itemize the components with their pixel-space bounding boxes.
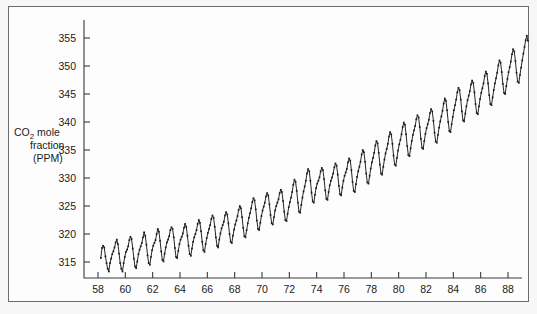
data-point bbox=[158, 231, 160, 233]
data-point bbox=[419, 126, 421, 128]
data-point bbox=[365, 173, 367, 175]
data-point bbox=[329, 184, 331, 186]
data-point bbox=[131, 238, 133, 240]
y-axis-title: CO2 mole fraction (PPM) bbox=[14, 126, 65, 164]
data-point bbox=[256, 220, 258, 222]
data-point bbox=[524, 46, 526, 48]
data-point bbox=[385, 153, 387, 155]
data-point bbox=[250, 207, 252, 209]
data-point bbox=[242, 227, 244, 229]
data-point bbox=[259, 222, 261, 224]
y-tick-label: 315 bbox=[58, 256, 76, 268]
y-tick-label: 355 bbox=[58, 32, 76, 44]
data-point bbox=[320, 170, 322, 172]
data-point bbox=[379, 164, 381, 166]
data-point bbox=[148, 262, 150, 264]
x-tick-label: 84 bbox=[447, 283, 459, 295]
data-point bbox=[511, 53, 513, 55]
x-tick-label: 70 bbox=[256, 283, 268, 295]
data-point bbox=[133, 258, 135, 260]
data-point bbox=[475, 103, 477, 105]
data-point bbox=[114, 247, 116, 249]
x-tick-label: 86 bbox=[475, 283, 487, 295]
data-point bbox=[221, 228, 223, 230]
data-point bbox=[229, 233, 231, 235]
data-point bbox=[300, 204, 302, 206]
data-point bbox=[189, 253, 191, 255]
data-point bbox=[123, 262, 125, 264]
data-point bbox=[184, 223, 186, 225]
data-point bbox=[405, 133, 407, 135]
data-point bbox=[355, 183, 357, 185]
data-point bbox=[215, 237, 217, 239]
data-point bbox=[381, 174, 383, 176]
data-point bbox=[382, 166, 384, 168]
data-point bbox=[521, 60, 523, 62]
data-point bbox=[441, 116, 443, 118]
data-point bbox=[296, 190, 298, 192]
data-point bbox=[258, 229, 260, 231]
data-point bbox=[336, 165, 338, 167]
data-point bbox=[453, 109, 455, 111]
data-point bbox=[493, 89, 495, 91]
data-point bbox=[269, 203, 271, 205]
data-point bbox=[232, 235, 234, 237]
data-point bbox=[368, 183, 370, 185]
data-point bbox=[248, 217, 250, 219]
data-point bbox=[166, 242, 168, 244]
data-point bbox=[109, 262, 111, 264]
data-point bbox=[436, 142, 438, 144]
data-point bbox=[103, 247, 105, 249]
data-point bbox=[423, 140, 425, 142]
data-point bbox=[427, 123, 429, 125]
data-point bbox=[461, 111, 463, 113]
data-point bbox=[105, 256, 107, 258]
data-point bbox=[499, 60, 501, 62]
data-point bbox=[354, 191, 356, 193]
data-point bbox=[267, 195, 269, 197]
x-tick-label: 74 bbox=[311, 283, 323, 295]
data-point bbox=[306, 173, 308, 175]
data-point bbox=[428, 119, 430, 121]
data-point bbox=[360, 161, 362, 163]
data-point bbox=[388, 136, 390, 138]
data-point bbox=[335, 163, 337, 165]
data-point bbox=[378, 152, 380, 154]
data-point bbox=[398, 144, 400, 146]
data-point bbox=[479, 98, 481, 100]
data-point bbox=[450, 131, 452, 133]
data-point bbox=[310, 180, 312, 182]
data-point bbox=[154, 242, 156, 244]
data-point bbox=[270, 214, 272, 216]
data-point bbox=[294, 179, 296, 181]
data-point bbox=[337, 174, 339, 176]
data-point bbox=[500, 62, 502, 64]
data-point bbox=[445, 100, 447, 102]
data-point bbox=[429, 112, 431, 114]
y-tick-label: 330 bbox=[58, 172, 76, 184]
data-point bbox=[460, 99, 462, 101]
data-point bbox=[187, 235, 189, 237]
data-point bbox=[433, 120, 435, 122]
data-point bbox=[390, 133, 392, 135]
data-point bbox=[193, 237, 195, 239]
data-point bbox=[151, 249, 153, 251]
data-point bbox=[139, 249, 141, 251]
data-point bbox=[308, 170, 310, 172]
data-point bbox=[452, 116, 454, 118]
data-point bbox=[141, 242, 143, 244]
data-point bbox=[414, 125, 416, 127]
data-point bbox=[228, 223, 230, 225]
data-point bbox=[314, 194, 316, 196]
data-point bbox=[463, 121, 465, 123]
data-point bbox=[443, 103, 445, 105]
data-point bbox=[520, 67, 522, 69]
data-point bbox=[201, 241, 203, 243]
data-point bbox=[130, 236, 132, 238]
data-point bbox=[447, 121, 449, 123]
data-point bbox=[142, 237, 144, 239]
x-tick-label: 82 bbox=[420, 283, 432, 295]
data-point bbox=[401, 133, 403, 135]
data-point bbox=[434, 132, 436, 134]
data-point bbox=[389, 131, 391, 133]
